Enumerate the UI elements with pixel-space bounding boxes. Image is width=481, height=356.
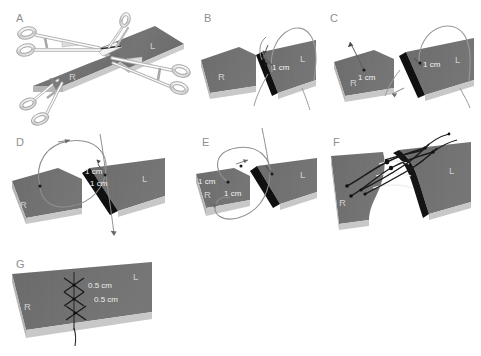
thread-direction-arrows-e [236,159,248,164]
panel-g: G R L [0,250,200,356]
tissue-label-right-a: R [69,71,76,82]
dimension-label-e-1: 1 cm [198,177,216,186]
panel-letter-a: A [16,13,24,24]
panel-e: E R [192,126,330,248]
panel-b: B R [196,0,321,125]
dimension-label-b-1: 1 cm [272,63,290,72]
tissue-label-right-g: R [24,301,31,312]
panel-d: D R [0,126,195,248]
hemostat-forceps-upper-a [15,25,100,58]
dimension-label-d-1: 1 cm [85,167,103,176]
suture-end-f [448,133,451,136]
panel-b-illustration: R L 1 [196,0,321,125]
tissue-block-right-d: R [12,168,82,224]
panel-e-illustration: R L [192,126,330,248]
dimension-label-d-2: 1 cm [90,179,108,188]
tissue-label-right-e: R [204,189,211,200]
tissue-block-right-b: R [201,47,256,99]
tissue-label-right-b: R [218,71,225,82]
tissue-label-right-f: R [339,197,346,208]
panel-d-illustration: R L [0,126,195,248]
dimension-label-g-1: 0.5 cm [88,281,112,290]
panel-c: C R [322,0,481,125]
tissue-block-left-c: L [399,38,474,101]
panel-letter-g: G [16,259,25,270]
panel-c-illustration: R 1 cm L [322,0,481,125]
panel-a-illustration: L R [0,0,195,125]
dimension-label-c-1: 1 cm [358,73,376,82]
dimension-label-g-2: 0.5 cm [94,295,118,304]
panel-letter-c: C [330,13,338,24]
tissue-label-left-c: L [455,54,460,65]
panel-letter-b: B [204,13,212,24]
tissue-label-right-c: R [350,77,357,88]
tissue-label-left-g: L [133,271,138,282]
panel-f: F R [325,126,481,248]
panel-letter-d: D [16,137,24,148]
panel-letter-e: E [202,137,210,148]
dimension-label-e-2: 1 cm [224,189,242,198]
tissue-label-left-e: L [300,169,305,180]
tissue-label-left-f: L [449,165,454,176]
tissue-block-right-a: R [33,51,121,92]
figure-canvas: A [0,0,481,356]
panel-g-illustration: R L 0.5 cm 0.5 cm [0,250,200,356]
dimension-label-c-2: 1 cm [423,60,441,69]
tissue-label-left-b: L [300,53,305,64]
tissue-label-right-d: R [20,199,27,210]
tissue-label-left-d: L [142,173,147,184]
panel-letter-f: F [333,137,340,148]
tissue-block-left-e: L [250,158,317,210]
panel-a: A [0,0,195,125]
tissue-label-left-a: L [150,40,155,51]
panel-f-illustration: R L [325,126,481,248]
tissue-block-right-e: R [196,168,250,216]
tissue-block-coapted-g: R L [12,262,152,338]
